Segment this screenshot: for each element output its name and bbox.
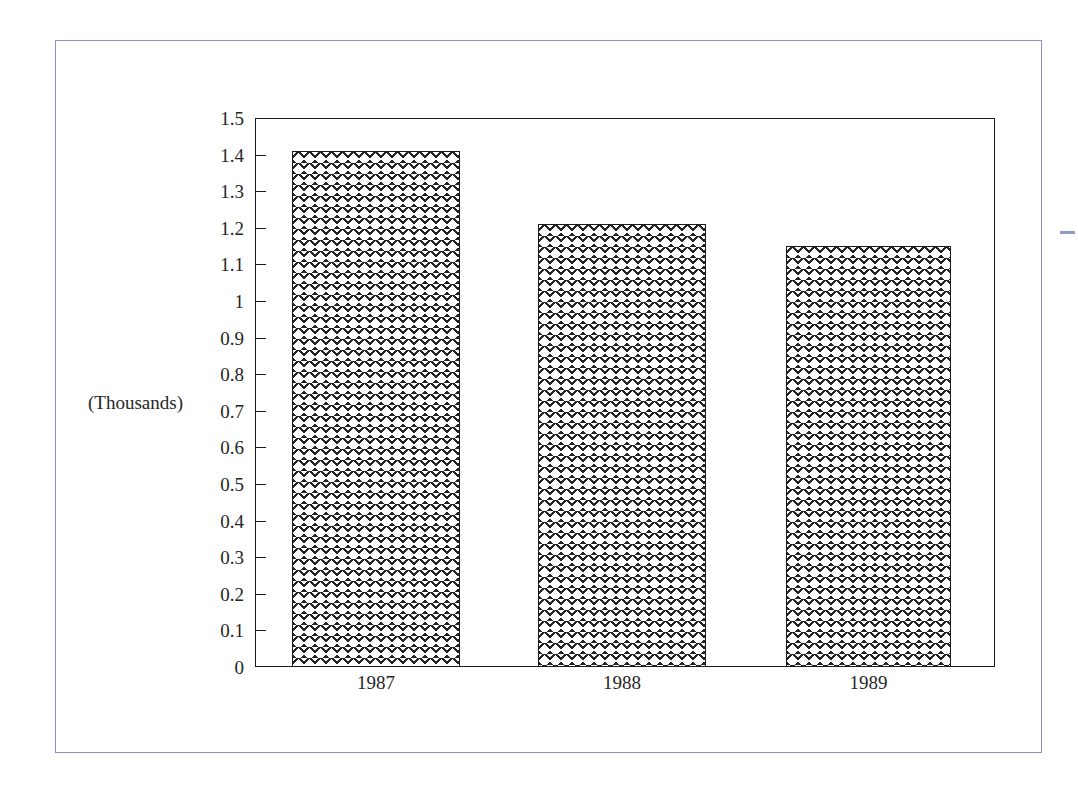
y-axis-tick-label: 1.4 bbox=[200, 145, 244, 164]
y-axis-tick bbox=[255, 484, 266, 485]
y-axis-tick bbox=[255, 191, 266, 192]
y-axis-tick bbox=[255, 264, 266, 265]
y-axis-tick-label: 0.7 bbox=[200, 401, 244, 420]
y-axis-tick bbox=[255, 155, 266, 156]
bar-1987 bbox=[292, 151, 460, 667]
bar-1989 bbox=[786, 246, 951, 667]
bar-chart: 1.51.41.31.21.110.90.80.70.60.50.40.30.2… bbox=[0, 0, 1078, 790]
x-axis-tick-label: 1989 bbox=[786, 673, 951, 692]
y-axis-tick-label: 1.1 bbox=[200, 255, 244, 274]
y-axis-tick bbox=[255, 411, 266, 412]
y-axis-tick-labels: 1.51.41.31.21.110.90.80.70.60.50.40.30.2… bbox=[196, 0, 244, 790]
y-axis-tick-label: 0.4 bbox=[200, 511, 244, 530]
y-axis-tick bbox=[255, 594, 266, 595]
y-axis-tick-label: 0.1 bbox=[200, 621, 244, 640]
y-axis-tick-label: 0.5 bbox=[200, 475, 244, 494]
bar-1988 bbox=[538, 224, 706, 667]
y-axis-tick-label: 1 bbox=[200, 292, 244, 311]
y-axis-tick bbox=[255, 301, 266, 302]
y-axis-tick-label: 0.9 bbox=[200, 328, 244, 347]
y-axis-tick bbox=[255, 447, 266, 448]
x-axis-tick-label: 1988 bbox=[538, 673, 706, 692]
y-axis-tick bbox=[255, 374, 266, 375]
y-axis-tick bbox=[255, 630, 266, 631]
y-axis-title: (Thousands) bbox=[88, 392, 183, 414]
y-axis-tick-label: 0.6 bbox=[200, 438, 244, 457]
y-axis-tick bbox=[255, 557, 266, 558]
y-axis-tick-label: 1.5 bbox=[200, 109, 244, 128]
y-axis-tick-label: 1.3 bbox=[200, 182, 244, 201]
y-axis-tick-label: 0 bbox=[200, 658, 244, 677]
y-axis-tick bbox=[255, 228, 266, 229]
y-axis-tick-label: 1.2 bbox=[200, 218, 244, 237]
y-axis-tick bbox=[255, 338, 266, 339]
y-axis-tick bbox=[255, 521, 266, 522]
y-axis-tick-label: 0.3 bbox=[200, 548, 244, 567]
y-axis-tick-label: 0.2 bbox=[200, 584, 244, 603]
y-axis-tick-label: 0.8 bbox=[200, 365, 244, 384]
x-axis-tick-label: 1987 bbox=[292, 673, 460, 692]
